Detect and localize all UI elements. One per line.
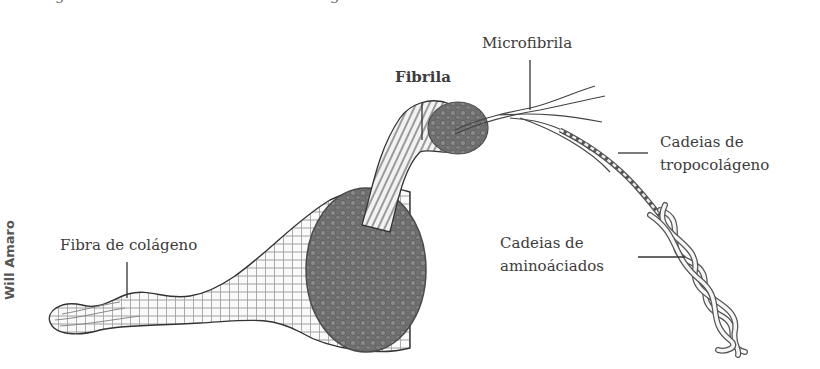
label-fibra-de-colageno: Fibra de colágeno xyxy=(60,236,197,255)
amino-acid-helix xyxy=(650,205,745,355)
clipped-caption-text: g xyxy=(55,0,65,4)
clipped-caption-text: g xyxy=(330,0,340,4)
label-microfibrila: Microfibrila xyxy=(482,34,572,53)
collagen-illustration xyxy=(0,0,820,369)
label-tropocolageno-line2: tropocolágeno xyxy=(660,156,769,175)
label-aminoacidos-line1: Cadeias de xyxy=(500,234,584,253)
label-tropocolageno-line1: Cadeias de xyxy=(660,133,744,152)
tropocollagen-chain xyxy=(560,130,662,218)
illustrator-credit: Will Amaro xyxy=(2,220,17,300)
label-aminoacidos-line2: aminoáciados xyxy=(500,257,604,276)
label-fibrila: Fibrila xyxy=(395,68,451,87)
